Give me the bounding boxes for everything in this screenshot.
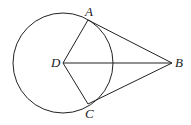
segment-DA [63,20,88,63]
label-D: D [51,56,60,69]
label-A: A [85,5,93,18]
segment-AB [88,20,172,63]
diagram-canvas [0,0,191,125]
label-C: C [85,107,94,120]
label-B: B [175,56,183,69]
segment-CB [88,63,172,104]
geometry-diagram: A B C D [0,0,191,125]
segment-DC [63,63,88,104]
